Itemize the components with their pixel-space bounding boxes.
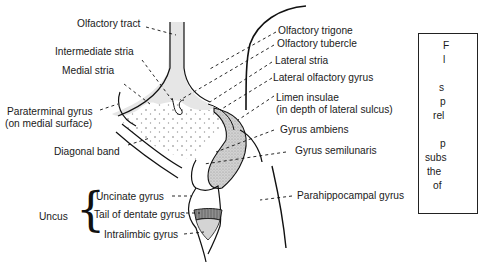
caption-fragment: the bbox=[427, 166, 441, 178]
leader-olfactory-tubercle bbox=[180, 45, 274, 100]
leader-parahippocampal-gyrus bbox=[260, 196, 292, 200]
parahippocampal-edge bbox=[272, 166, 286, 248]
leader-limen-insulae bbox=[238, 96, 274, 120]
caption-fragment: p bbox=[440, 138, 446, 150]
label-diagonal-band: Diagonal band bbox=[54, 146, 120, 158]
caption-fragment: subs bbox=[425, 152, 447, 164]
label-gyrus-semilunaris: Gyrus semilunaris bbox=[295, 145, 377, 157]
label-uncinate-gyrus: Uncinate gyrus bbox=[96, 191, 164, 203]
label-olfactory-tract: Olfactory tract bbox=[77, 18, 140, 30]
label-lateral-stria: Lateral stria bbox=[275, 55, 328, 67]
label-intermediate-stria: Intermediate stria bbox=[55, 46, 134, 58]
caption-fragment: rel bbox=[433, 110, 444, 122]
caption-fragment: p bbox=[440, 96, 446, 108]
label-limen-insulae-note: (in depth of lateral sulcus) bbox=[276, 104, 393, 116]
label-uncus: Uncus bbox=[39, 211, 68, 223]
label-paraterminal-gyrus-note: (on medial surface) bbox=[5, 118, 92, 130]
caption-box: F l s p rel p subs the of bbox=[418, 33, 478, 214]
label-lateral-olfactory-gyrus: Lateral olfactory gyrus bbox=[273, 72, 373, 84]
label-intralimbic-gyrus: Intralimbic gyrus bbox=[104, 229, 178, 241]
label-medial-stria: Medial stria bbox=[62, 65, 114, 77]
label-parahippocampal-gyrus: Parahippocampal gyrus bbox=[297, 190, 404, 202]
caption-fragment: F bbox=[443, 40, 449, 52]
olfactory-tract-shape bbox=[112, 22, 214, 116]
caption-fragment: l bbox=[443, 54, 445, 66]
caption-fragment: s bbox=[439, 82, 444, 94]
label-tail-of-dentate-gyrus: Tail of dentate gyrus bbox=[94, 209, 185, 221]
label-olfactory-tubercle: Olfactory tubercle bbox=[277, 38, 357, 50]
leader-olfactory-trigone bbox=[208, 32, 276, 70]
label-olfactory-trigone: Olfactory trigone bbox=[278, 25, 353, 37]
leader-paraterminal-gyrus bbox=[100, 104, 118, 110]
leader-lateral-stria bbox=[210, 62, 272, 102]
label-paraterminal-gyrus: Paraterminal gyrus bbox=[7, 106, 93, 118]
caption-fragment: of bbox=[433, 180, 442, 192]
label-limen-insulae: Limen insulae bbox=[276, 92, 339, 104]
leader-intralimbic bbox=[184, 232, 204, 234]
label-gyrus-ambiens: Gyrus ambiens bbox=[280, 124, 349, 136]
